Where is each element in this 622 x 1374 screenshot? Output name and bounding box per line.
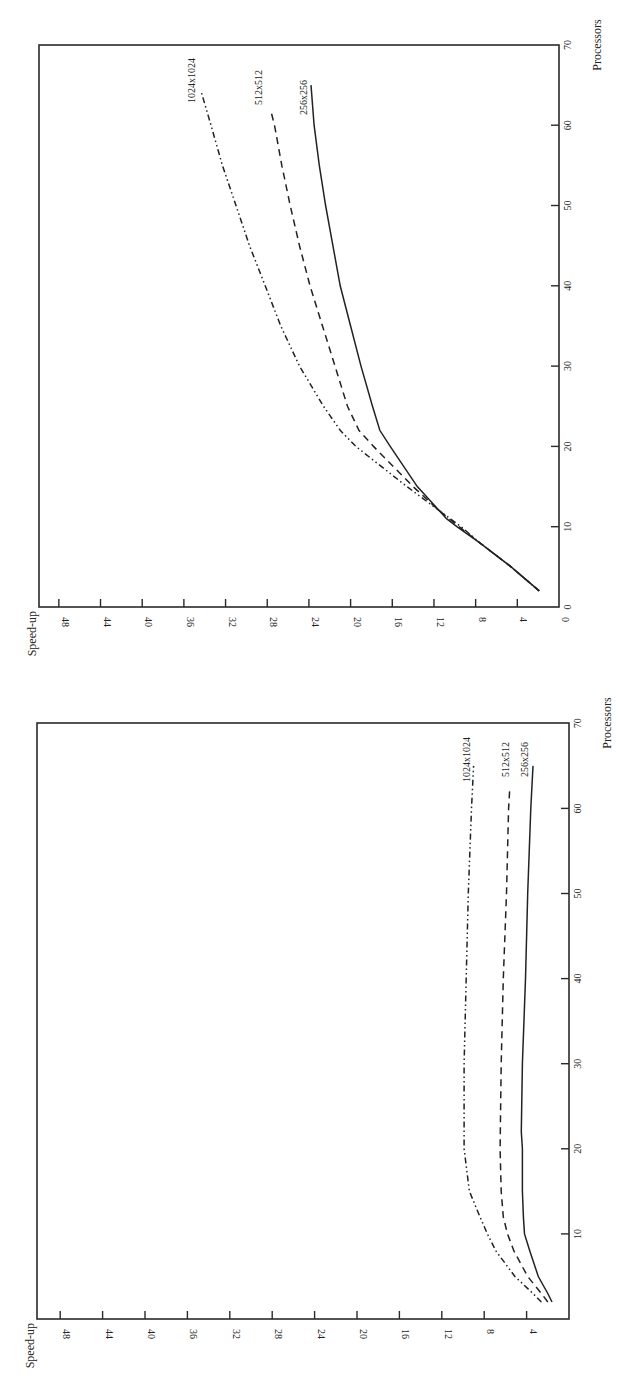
processor-tick-label: 20	[562, 441, 573, 451]
processor-tick-label: 0	[562, 605, 573, 610]
speedup-tick-label: 32	[231, 1329, 242, 1339]
speedup-tick-label: 40	[143, 617, 154, 627]
speedup-axis-title: Speed-up	[25, 611, 39, 656]
series-512x512	[270, 109, 539, 591]
speedup-tick-label: 48	[60, 617, 71, 627]
speedup-tick-label: 20	[352, 617, 363, 627]
speedup-tick-label: 8	[477, 617, 488, 622]
series-256x256	[311, 85, 539, 591]
series-label-1024x1024: 1024x1024	[186, 58, 197, 103]
speedup-tick-label: 36	[188, 1329, 199, 1339]
speedup-tick-label: 24	[316, 1329, 327, 1339]
speedup-tick-label: 12	[443, 1329, 454, 1339]
speedup-tick-label: 28	[273, 1329, 284, 1339]
speedup-tick-label: 36	[185, 617, 196, 627]
speedup-tick-label: 28	[268, 617, 279, 627]
series-label-512x512: 512x512	[253, 70, 264, 105]
series-label-256x256: 256x256	[519, 742, 530, 777]
processor-tick-label: 70	[562, 40, 573, 50]
processor-tick-label: 40	[562, 281, 573, 291]
processors-axis-title: Processors	[600, 697, 614, 749]
speedup-tick-label: 44	[104, 1329, 115, 1339]
series-256x256	[521, 766, 552, 1302]
speedup-charts: 04812162024283236404448010203040506070Sp…	[0, 0, 622, 1374]
speedup-tick-label: 24	[310, 617, 321, 627]
processors-axis-title: Processors	[590, 19, 604, 71]
processor-tick-label: 30	[572, 1059, 583, 1069]
processor-tick-label: 70	[572, 718, 583, 728]
speedup-tick-label: 16	[400, 1329, 411, 1339]
series-label-256x256: 256x256	[298, 80, 309, 115]
processor-tick-label: 30	[562, 361, 573, 371]
processor-tick-label: 10	[562, 522, 573, 532]
processor-tick-label: 60	[572, 803, 583, 813]
speedup-tick-label: 16	[393, 617, 404, 627]
processor-tick-label: 50	[572, 889, 583, 899]
plot-frame	[39, 45, 559, 607]
processor-tick-label: 10	[572, 1229, 583, 1239]
processor-tick-label: 40	[572, 974, 583, 984]
speedup-tick-label: 4	[518, 617, 529, 622]
plot-frame	[37, 723, 569, 1319]
series-label-1024x1024: 1024x1024	[461, 737, 472, 782]
speedup-tick-label: 44	[102, 617, 113, 627]
series-1024x1024	[202, 93, 540, 591]
speedup-tick-label: 0	[560, 617, 571, 622]
speedup-tick-label: 32	[227, 617, 238, 627]
speedup-axis-title: Speed-up	[23, 1323, 37, 1368]
series-label-512x512: 512x512	[500, 742, 511, 777]
speedup-tick-label: 8	[485, 1329, 496, 1334]
speedup-tick-label: 12	[435, 617, 446, 627]
speedup-tick-label: 40	[146, 1329, 157, 1339]
processor-tick-label: 20	[572, 1144, 583, 1154]
speedup-tick-label: 20	[358, 1329, 369, 1339]
speedup-chart-top: 04812162024283236404448010203040506070Sp…	[25, 19, 604, 656]
speedup-tick-label: 48	[61, 1329, 72, 1339]
speedup-chart-bottom: 481216202428323640444810203040506070Spee…	[23, 697, 614, 1368]
processor-tick-label: 60	[562, 120, 573, 130]
processor-tick-label: 50	[562, 201, 573, 211]
speedup-tick-label: 4	[528, 1329, 539, 1334]
